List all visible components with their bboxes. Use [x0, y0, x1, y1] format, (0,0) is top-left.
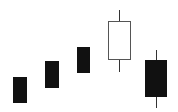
candle-upper-wick — [156, 50, 157, 60]
candle-2-body — [45, 61, 59, 88]
candle-lower-wick — [119, 60, 120, 72]
candlestick-chart — [0, 0, 178, 112]
candle-3-body — [77, 47, 90, 73]
candle-5-body — [145, 60, 167, 97]
candle-lower-wick — [156, 97, 157, 108]
candle-4-body — [108, 21, 131, 60]
candle-1-body — [13, 77, 27, 103]
candle-upper-wick — [119, 10, 120, 21]
